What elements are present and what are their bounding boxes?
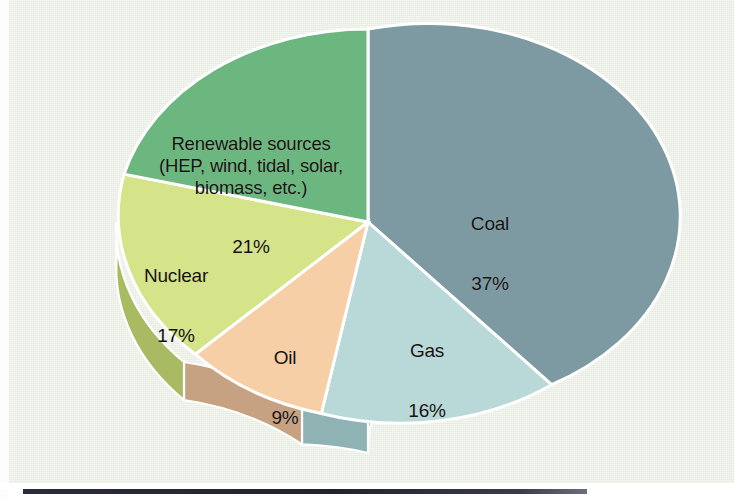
pie-label-nuclear-value: 17% — [108, 325, 244, 347]
pie-label-nuclear: Nuclear 17% — [108, 228, 244, 385]
pie-label-gas-value: 16% — [372, 400, 482, 422]
pie-label-renewable-name: Renewable sources (HEP, wind, tidal, sol… — [126, 133, 376, 198]
pie-label-oil-value: 9% — [243, 407, 327, 429]
pie-label-coal-name: Coal — [430, 213, 550, 235]
pie-label-gas-name: Gas — [372, 340, 482, 362]
pie-label-coal-value: 37% — [430, 273, 550, 295]
pie-label-oil: Oil 9% — [243, 310, 327, 467]
figure-page: Renewable sources (HEP, wind, tidal, sol… — [0, 0, 734, 498]
pie-label-oil-name: Oil — [243, 347, 327, 369]
pie-label-nuclear-name: Nuclear — [108, 265, 244, 287]
next-figure-edge-bar — [23, 489, 587, 494]
pie-label-gas: Gas 16% — [372, 303, 482, 460]
